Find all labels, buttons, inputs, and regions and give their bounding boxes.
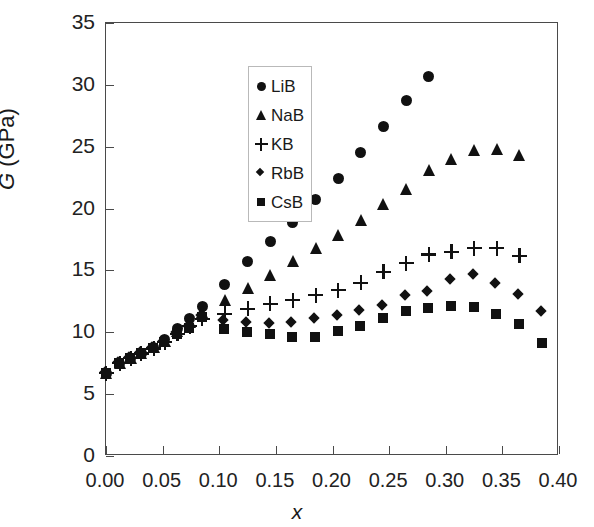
data-point-csb [172, 329, 182, 339]
legend-label: KB [271, 136, 294, 153]
x-tick-mark [559, 446, 560, 454]
plot-area: LiBNaBKBRbBCsB [105, 22, 558, 455]
circle-icon [253, 78, 269, 94]
data-point-csb [491, 309, 501, 319]
data-point-csb [333, 326, 343, 336]
triangle-icon [253, 107, 269, 123]
data-point-csb [378, 313, 388, 323]
series-csb [106, 23, 557, 454]
y-tick-label: 10 [39, 320, 95, 341]
y-tick-label: 5 [39, 382, 95, 403]
y-tick-label: 15 [39, 258, 95, 279]
legend-item-rbb: RbB [253, 162, 311, 184]
y-tick-label: 35 [39, 11, 95, 32]
legend-label: RbB [271, 165, 304, 182]
y-axis-label-unit: (GPa) [0, 108, 19, 173]
data-point-csb [159, 337, 169, 347]
data-point-csb [401, 306, 411, 316]
data-point-csb [242, 327, 252, 337]
data-point-csb [310, 332, 320, 342]
legend-item-lib: LiB [253, 75, 311, 97]
data-point-csb [514, 319, 524, 329]
legend-item-nab: NaB [253, 104, 311, 126]
y-tick-mark [106, 456, 114, 457]
diamond-glyph [255, 167, 263, 175]
triangle-glyph [256, 110, 266, 120]
data-point-csb [355, 321, 365, 331]
y-axis-label-symbol: G [0, 173, 19, 190]
square-glyph [257, 198, 265, 206]
data-point-csb [197, 312, 207, 322]
data-point-csb [537, 338, 547, 348]
y-tick-label: 25 [39, 135, 95, 156]
plus-glyph [255, 138, 268, 151]
legend-item-csb: CsB [253, 191, 311, 213]
y-tick-label: 30 [39, 73, 95, 94]
plus-marker-vertical [260, 138, 262, 151]
data-point-csb [184, 323, 194, 333]
plus-icon [253, 136, 269, 152]
y-tick-label: 20 [39, 197, 95, 218]
scatter-plot-figure: G (GPa) 05101520253035 0.000.050.100.150… [0, 0, 594, 527]
legend-item-kb: KB [253, 133, 311, 155]
x-axis-label: x [0, 500, 594, 524]
diamond-icon [253, 165, 269, 181]
data-point-csb [148, 343, 158, 353]
data-point-csb [446, 301, 456, 311]
data-point-csb [219, 324, 229, 334]
plus-marker-horizontal [255, 143, 268, 145]
data-point-csb [287, 332, 297, 342]
legend-label: LiB [271, 78, 296, 95]
x-tick-label: 0.40 [518, 470, 594, 490]
y-tick-label: 0 [39, 444, 95, 465]
square-icon [253, 194, 269, 210]
data-point-csb [265, 329, 275, 339]
legend-box: LiBNaBKBRbBCsB [248, 66, 312, 222]
circle-glyph [257, 82, 266, 91]
data-point-csb [101, 368, 111, 378]
data-point-csb [469, 302, 479, 312]
legend-label: CsB [271, 194, 303, 211]
data-point-csb [423, 303, 433, 313]
legend-label: NaB [271, 107, 304, 124]
y-axis-label: G (GPa) [0, 108, 20, 190]
data-point-csb [136, 348, 146, 358]
data-point-csb [125, 353, 135, 363]
data-point-csb [114, 358, 124, 368]
